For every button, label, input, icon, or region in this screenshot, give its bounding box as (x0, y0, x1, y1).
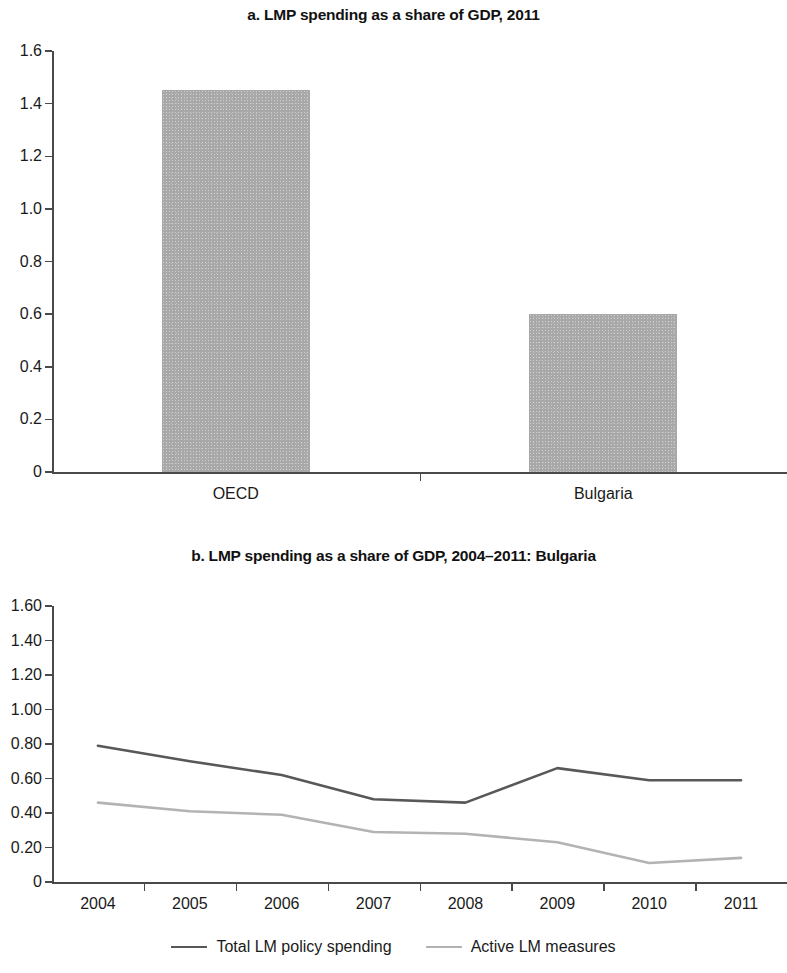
y-tick-mark (45, 778, 52, 780)
x-tick-mark (328, 884, 330, 891)
y-tick-mark (45, 812, 52, 814)
panel-a-title: a. LMP spending as a share of GDP, 2011 (0, 6, 787, 24)
legend-line-icon (426, 946, 462, 949)
y-tick-label: 1.60 (0, 597, 42, 615)
legend-label: Active LM measures (471, 938, 616, 956)
y-tick-mark (45, 709, 52, 711)
x-tick-label: 2007 (329, 895, 419, 913)
panel-b-line-chart: b. LMP spending as a share of GDP, 2004–… (0, 530, 787, 973)
panel-b-title: b. LMP spending as a share of GDP, 2004–… (0, 547, 787, 565)
y-tick-mark (45, 640, 52, 642)
x-tick-mark (511, 884, 513, 891)
y-tick-label: 0.40 (0, 804, 42, 822)
bar-bulgaria (529, 314, 677, 472)
y-tick-mark (45, 674, 52, 676)
y-tick-label: 1.2 (0, 147, 42, 165)
y-tick-label: 0.80 (0, 735, 42, 753)
x-tick-mark (420, 474, 422, 481)
y-tick-mark (45, 419, 52, 421)
y-tick-label: 1.6 (0, 42, 42, 60)
y-tick-label: 1.0 (0, 200, 42, 218)
y-tick-label: 1.00 (0, 701, 42, 719)
y-tick-mark (45, 261, 52, 263)
x-tick-label: 2011 (696, 895, 786, 913)
y-tick-mark (45, 156, 52, 158)
y-tick-mark (45, 743, 52, 745)
panel-a-plot-area: 00.20.40.60.81.01.21.41.6 OECDBulgaria (52, 51, 787, 472)
y-tick-mark (45, 50, 52, 52)
y-tick-label: 0.60 (0, 770, 42, 788)
series-line (98, 803, 741, 863)
panel-a-bar-chart: a. LMP spending as a share of GDP, 2011 … (0, 0, 787, 530)
y-tick-label: 1.40 (0, 632, 42, 650)
x-tick-label: 2010 (604, 895, 694, 913)
legend-label: Total LM policy spending (216, 938, 391, 956)
series-line (98, 746, 741, 803)
x-tick-mark (420, 884, 422, 891)
y-tick-mark (45, 847, 52, 849)
y-tick-mark (45, 881, 52, 883)
panel-b-series-lines (52, 606, 787, 882)
x-tick-mark (144, 884, 146, 891)
x-tick-label: 2004 (53, 895, 143, 913)
x-tick-label: Bulgaria (513, 485, 693, 503)
y-tick-mark (45, 103, 52, 105)
y-tick-label: 0.4 (0, 358, 42, 376)
y-tick-label: 0.20 (0, 839, 42, 857)
y-tick-mark (45, 366, 52, 368)
legend-item-2: Active LM measures (426, 938, 616, 956)
y-tick-mark (45, 605, 52, 607)
figure-page: a. LMP spending as a share of GDP, 2011 … (0, 0, 787, 973)
bar-oecd (162, 90, 310, 472)
x-tick-label: 2005 (145, 895, 235, 913)
x-tick-label: 2009 (512, 895, 602, 913)
y-tick-label: 0.6 (0, 305, 42, 323)
y-tick-label: 1.4 (0, 95, 42, 113)
y-tick-mark (45, 208, 52, 210)
x-tick-mark (603, 884, 605, 891)
y-tick-mark (45, 471, 52, 473)
x-tick-mark (236, 884, 238, 891)
x-tick-mark (695, 884, 697, 891)
panel-b-legend: Total LM policy spendingActive LM measur… (0, 938, 787, 956)
panel-b-plot-area: 00.200.400.600.801.001.201.401.60 200420… (52, 606, 787, 882)
panel-a-y-axis (52, 51, 54, 472)
x-tick-label: OECD (146, 485, 326, 503)
y-tick-mark (45, 313, 52, 315)
y-tick-label: 0.8 (0, 253, 42, 271)
y-tick-label: 1.20 (0, 666, 42, 684)
y-tick-label: 0 (0, 873, 42, 891)
x-tick-label: 2008 (420, 895, 510, 913)
legend-item-1: Total LM policy spending (171, 938, 391, 956)
y-tick-label: 0 (0, 463, 42, 481)
x-tick-label: 2006 (237, 895, 327, 913)
legend-line-icon (171, 946, 207, 949)
y-tick-label: 0.2 (0, 410, 42, 428)
